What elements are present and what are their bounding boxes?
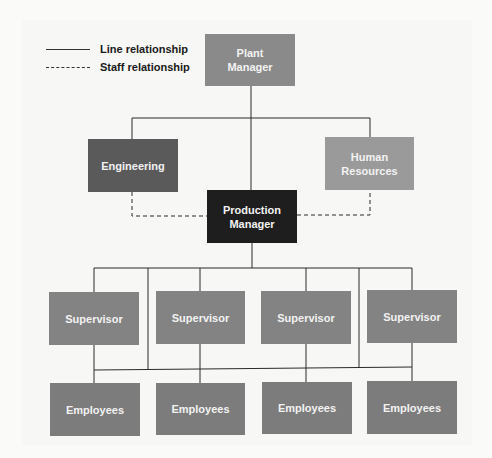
org-chart: Line relationship Staff relationship Pla… bbox=[0, 0, 492, 458]
node-label: Manager bbox=[223, 217, 281, 231]
dashed-line-icon bbox=[46, 67, 90, 68]
node-label: Engineering bbox=[101, 159, 165, 173]
legend-label: Line relationship bbox=[100, 43, 188, 55]
node-human-resources: Human Resources bbox=[325, 137, 414, 190]
node-employees: Employees bbox=[367, 381, 457, 434]
node-label: Manager bbox=[227, 60, 272, 74]
node-label: Employees bbox=[66, 403, 124, 417]
staff-line-engineering bbox=[132, 192, 207, 216]
node-label: Supervisor bbox=[172, 311, 229, 325]
node-label: Employees bbox=[171, 402, 229, 416]
node-label: Supervisor bbox=[383, 310, 440, 324]
line-employee-branch bbox=[94, 367, 412, 370]
node-label: Human bbox=[341, 150, 397, 164]
node-supervisor: Supervisor bbox=[261, 291, 351, 344]
legend-item-line: Line relationship bbox=[46, 40, 190, 58]
staff-line-hr bbox=[297, 190, 370, 215]
legend: Line relationship Staff relationship bbox=[46, 40, 190, 76]
solid-line-icon bbox=[46, 49, 90, 50]
node-employees: Employees bbox=[50, 383, 140, 436]
legend-label: Staff relationship bbox=[100, 61, 190, 73]
node-label: Resources bbox=[341, 164, 397, 178]
node-label: Supervisor bbox=[277, 311, 334, 325]
node-employees: Employees bbox=[262, 382, 352, 434]
node-label: Plant bbox=[227, 46, 272, 60]
node-supervisor: Supervisor bbox=[49, 292, 139, 345]
node-supervisor: Supervisor bbox=[156, 291, 245, 344]
node-label: Supervisor bbox=[65, 312, 122, 326]
node-plant-manager: Plant Manager bbox=[205, 34, 295, 86]
node-label: Production bbox=[223, 203, 281, 217]
node-engineering: Engineering bbox=[88, 139, 178, 192]
node-production-manager: Production Manager bbox=[207, 190, 297, 243]
legend-item-staff: Staff relationship bbox=[46, 58, 190, 76]
node-employees: Employees bbox=[156, 383, 245, 435]
node-supervisor: Supervisor bbox=[367, 290, 457, 343]
node-label: Employees bbox=[383, 401, 441, 415]
node-label: Employees bbox=[278, 401, 336, 415]
